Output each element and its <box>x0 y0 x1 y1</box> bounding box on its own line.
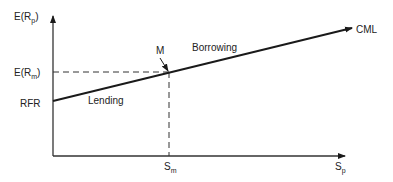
m-pointer-arrow <box>160 58 168 71</box>
cml-diagram: E(Rp) E(Rm) RFR Lending Borrowing M CML … <box>0 0 393 182</box>
cml-label: CML <box>356 24 378 35</box>
lending-label: Lending <box>88 95 124 106</box>
cml-line <box>53 28 352 101</box>
sm-label: Sm <box>164 161 177 174</box>
x-axis-label: Sp <box>335 161 346 175</box>
erm-label: E(Rm) <box>14 67 40 80</box>
rfr-label: RFR <box>20 98 41 109</box>
market-point-label: M <box>156 45 164 56</box>
borrowing-label: Borrowing <box>192 42 237 53</box>
y-axis-label: E(Rp) <box>14 11 38 25</box>
